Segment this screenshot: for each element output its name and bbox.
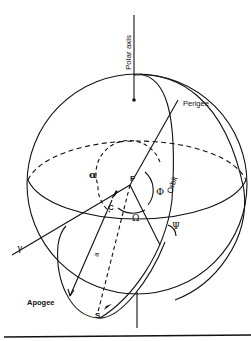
focus-label: F (130, 174, 135, 183)
omega-label: Ω (132, 213, 139, 223)
pole-dot (132, 98, 136, 102)
equator-back (28, 141, 246, 180)
orbit-plane-outer (134, 75, 245, 300)
phi-label: Φ (156, 186, 164, 197)
bottom-rule (4, 335, 251, 337)
vernal-equinox-label: γ (17, 243, 22, 253)
perigee-label: Perigee (183, 99, 209, 108)
semi-major-axis-label: a (92, 252, 100, 258)
satellite-label: S (95, 311, 101, 320)
orbit-diagram: Polar axis Perigee Apogee Orbit F C S a … (0, 0, 251, 341)
vernal-equinox-line (12, 185, 130, 255)
center-label: C (108, 203, 114, 212)
polar-axis-label: Polar axis (124, 35, 133, 70)
apogee-label: Apogee (27, 298, 55, 307)
psi-label: Ψ (172, 221, 180, 231)
center-mark (112, 190, 118, 198)
satellite-arrow-icon (104, 304, 112, 310)
orbit-label: Orbit (165, 175, 179, 195)
focus-perigee-line (130, 100, 178, 185)
alpha-label: α (89, 169, 97, 180)
sphere-outline (27, 74, 247, 294)
phi-arc (145, 172, 153, 205)
